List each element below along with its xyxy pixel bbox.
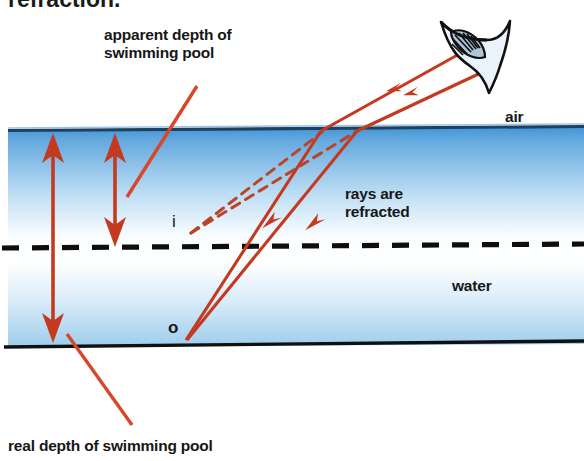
air-label: air bbox=[505, 108, 523, 126]
image-point-label: i bbox=[172, 212, 176, 232]
refraction-diagram: refraction. apparent depth of swimming p… bbox=[0, 0, 584, 461]
clipped-heading: refraction. bbox=[8, 0, 120, 13]
water-label: water bbox=[452, 277, 492, 295]
apparent-depth-label: apparent depth of swimming pool bbox=[104, 26, 232, 63]
object-point-label: o bbox=[168, 318, 178, 338]
water-body bbox=[8, 126, 584, 347]
rays-refracted-label: rays are refracted bbox=[345, 185, 410, 222]
real-depth-label: real depth of swimming pool bbox=[8, 437, 213, 455]
diagram-canvas bbox=[0, 0, 584, 461]
